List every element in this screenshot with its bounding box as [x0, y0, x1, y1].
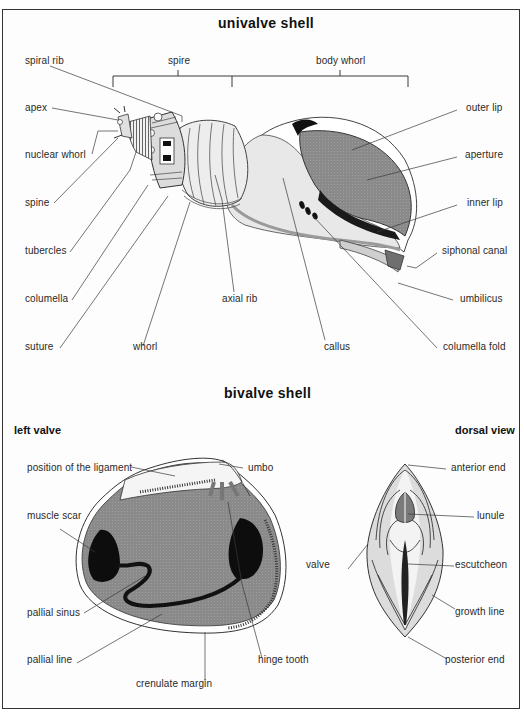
label-umbo: umbo [248, 462, 273, 474]
label-posterior-end: posterior end [445, 654, 505, 666]
label-muscle-scar: muscle scar [27, 510, 81, 522]
body-whorl-shape [226, 117, 417, 272]
label-siphonal-canal: siphonal canal [442, 245, 507, 257]
label-outer-lip: outer lip [466, 102, 502, 114]
label-pallial-sinus: pallial sinus [27, 607, 80, 619]
label-tubercles: tubercles [25, 245, 66, 257]
label-crenulate-margin: crenulate margin [136, 678, 212, 690]
label-ligament: position of the ligament [27, 462, 132, 474]
univalve-title: univalve shell [218, 15, 314, 31]
label-umbilicus: umbilicus [460, 293, 503, 305]
label-suture: suture [25, 341, 53, 353]
label-aperture: aperture [465, 149, 503, 161]
label-spine: spine [25, 197, 49, 209]
label-columella-fold: columella fold [443, 341, 506, 353]
label-nuclear-whorl: nuclear whorl [25, 149, 86, 161]
left-valve-illustration [60, 458, 286, 681]
label-anterior-end: anterior end [451, 462, 506, 474]
label-apex: apex [25, 102, 47, 114]
label-spiral-rib: spiral rib [25, 55, 64, 67]
label-pallial-line: pallial line [27, 654, 72, 666]
left-valve-title: left valve [14, 424, 61, 436]
label-body-whorl: body whorl [316, 55, 365, 67]
label-growth-line: growth line [455, 606, 504, 618]
label-spire: spire [168, 55, 190, 67]
label-inner-lip: inner lip [467, 197, 503, 209]
label-escutcheon: escutcheon [455, 559, 507, 571]
label-valve: valve [306, 559, 330, 571]
label-callus: callus [324, 341, 350, 353]
label-axial-rib: axial rib [222, 293, 257, 305]
label-hinge-tooth: hinge tooth [258, 654, 309, 666]
spire-bodywhorl-bracket [113, 70, 408, 87]
bivalve-title: bivalve shell [224, 385, 311, 401]
univalve-illustration [50, 66, 457, 348]
label-whorl: whorl [133, 341, 157, 353]
label-lunule: lunule [477, 510, 504, 522]
label-columella: columella [25, 293, 68, 305]
dorsal-view-title: dorsal view [455, 424, 515, 436]
